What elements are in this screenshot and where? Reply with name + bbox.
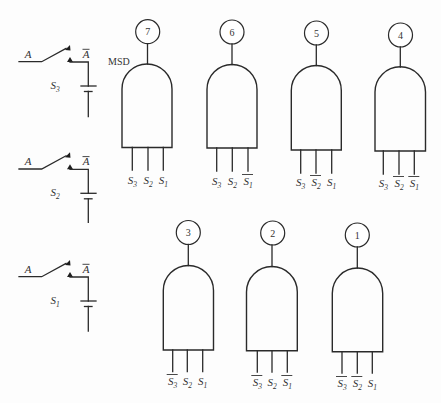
- lower-contact-icon: [67, 272, 73, 277]
- switch-s2: A A S2: [19, 152, 96, 222]
- switch-wire: [70, 277, 88, 301]
- switch-wire: [70, 169, 88, 193]
- gate-input-label: S3: [337, 377, 347, 392]
- gate-input-label: S2: [143, 174, 153, 189]
- gate-number: 6: [230, 27, 235, 38]
- and-gate-5: 5 S3 S2 S1: [291, 21, 341, 191]
- and-gate-body: [291, 66, 341, 151]
- switch-name-label: S1: [50, 294, 59, 309]
- lower-contact-icon: [67, 164, 73, 169]
- gate-input-label: S1: [159, 174, 168, 189]
- gate-input-label: S1: [198, 375, 207, 390]
- and-gate-body: [247, 266, 298, 350]
- gate-input-label: S3: [128, 174, 138, 189]
- gate-input-label: S3: [253, 376, 263, 391]
- switch-wire: [70, 62, 88, 86]
- and-gate-4: 4 S3 S2 S1: [375, 23, 426, 192]
- and-gate-body: [332, 268, 382, 352]
- gate-input-label: S3: [379, 177, 389, 192]
- gate-number: 4: [398, 30, 403, 41]
- and-gate-2: 2 S3 S2 S1: [247, 221, 298, 391]
- gate-input-label: S2: [353, 377, 363, 392]
- upper-contact-icon: [65, 45, 71, 51]
- gate-number: 7: [145, 26, 150, 37]
- and-gate-7: 7 S3 S2 S1: [122, 20, 172, 189]
- gate-input-label: S3: [212, 175, 222, 190]
- switch-s1: A A S1: [19, 260, 96, 331]
- gate-input-label: S2: [311, 176, 321, 191]
- msd-label: MSD: [108, 56, 130, 67]
- gate-input-label: S1: [327, 176, 336, 191]
- gate-input-label: S3: [168, 375, 178, 390]
- lower-contact-icon: [67, 57, 73, 62]
- gate-input-label: S1: [410, 177, 419, 192]
- switch-s3: A A S3: [19, 45, 96, 117]
- and-gate-body: [375, 67, 426, 151]
- and-gate-6: 6 S3 S2 S1: [207, 20, 257, 190]
- switch-input-label: A: [24, 48, 32, 60]
- gate-input-label: S2: [267, 376, 277, 391]
- gate-input-label: S2: [394, 177, 404, 192]
- gate-input-label: S1: [368, 377, 377, 392]
- switch-input-label: A: [24, 155, 32, 167]
- gate-input-label: S1: [243, 175, 252, 190]
- diagram-canvas: A A S3 A A S2 A A S1: [0, 0, 441, 403]
- and-gate-1: 1 S3 S2 S1: [332, 223, 382, 392]
- decoder-diagram: A A S3 A A S2 A A S1: [0, 0, 441, 403]
- and-gate-3: 3 S3 S2 S1: [163, 221, 213, 390]
- switch-input-label: A: [24, 263, 32, 275]
- switch-name-label: S2: [50, 186, 60, 201]
- gate-input-label: S1: [283, 376, 292, 391]
- and-gate-body: [163, 266, 213, 350]
- gate-input-label: S2: [228, 175, 238, 190]
- switch-name-label: S3: [50, 79, 60, 94]
- gate-number: 3: [186, 227, 191, 238]
- gate-input-label: S2: [183, 375, 193, 390]
- upper-contact-icon: [65, 152, 71, 158]
- and-gate-body: [207, 65, 257, 149]
- gate-input-label: S3: [296, 176, 306, 191]
- gate-number: 1: [355, 230, 360, 241]
- gate-number: 2: [270, 228, 275, 239]
- upper-contact-icon: [65, 260, 71, 266]
- gate-number: 5: [314, 28, 319, 39]
- and-gate-body: [122, 64, 172, 147]
